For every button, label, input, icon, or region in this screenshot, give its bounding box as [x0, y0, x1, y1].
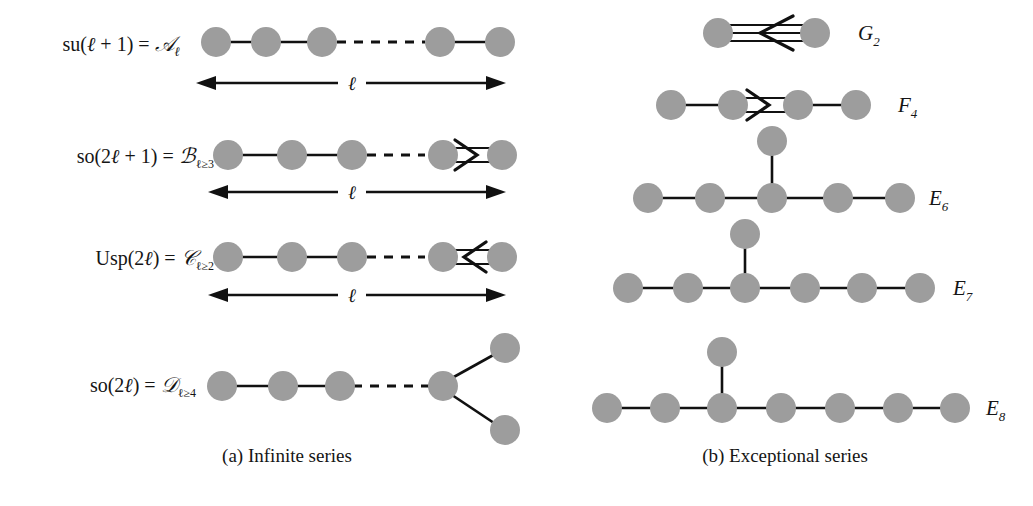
caption-exceptional-series: (b) Exceptional series — [702, 445, 868, 467]
row-G2: G2 — [703, 16, 880, 50]
node — [428, 140, 458, 170]
row-E6-label: E6 — [928, 186, 949, 214]
node — [428, 371, 458, 401]
measure-label-B: ℓ — [348, 182, 356, 203]
node — [425, 27, 455, 57]
dynkin-diagram-figure: su(ℓ + 1) = 𝒜ℓ ℓ so(2ℓ + 1) = — [0, 0, 1033, 506]
node — [490, 333, 520, 363]
node — [718, 90, 748, 120]
row-E6: E6 — [633, 126, 949, 214]
node — [783, 90, 813, 120]
node — [277, 140, 307, 170]
row-E7-label: E7 — [952, 276, 973, 304]
measure-arrowhead-right — [486, 185, 506, 199]
exc-letter: G — [858, 21, 873, 45]
node — [337, 242, 367, 272]
node — [885, 183, 915, 213]
node — [847, 273, 877, 303]
row-F4-label: F4 — [897, 93, 918, 121]
node — [485, 27, 515, 57]
row-G2-label: G2 — [858, 21, 880, 49]
measure-arrow-C: ℓ — [208, 285, 506, 306]
node — [613, 273, 643, 303]
row-B-label: so(2ℓ + 1) = ℬℓ≥3 — [77, 144, 214, 171]
measure-arrow-A: ℓ — [196, 73, 506, 94]
node — [487, 242, 517, 272]
node — [707, 393, 737, 423]
panel-infinite-series: su(ℓ + 1) = 𝒜ℓ ℓ so(2ℓ + 1) = — [63, 27, 520, 467]
exc-subscript: 7 — [966, 289, 973, 304]
row-C-label: Usp(2ℓ) = 𝒞ℓ≥2 — [95, 246, 214, 273]
row-A: su(ℓ + 1) = 𝒜ℓ ℓ — [63, 27, 515, 94]
node — [268, 371, 298, 401]
node — [650, 393, 680, 423]
node-branch — [707, 337, 737, 367]
node — [940, 393, 970, 423]
node — [307, 27, 337, 57]
node — [703, 18, 733, 48]
caption-infinite-series: (a) Infinite series — [222, 445, 352, 467]
measure-arrowhead-right — [486, 288, 506, 302]
measure-arrowhead-left — [208, 185, 228, 199]
node — [201, 27, 231, 57]
measure-label-C: ℓ — [348, 285, 356, 306]
node — [841, 90, 871, 120]
node — [213, 242, 243, 272]
exc-letter: E — [985, 396, 999, 420]
row-D: so(2ℓ) = 𝒟ℓ≥4 — [90, 333, 520, 445]
measure-arrowhead-right — [486, 76, 506, 90]
node — [656, 90, 686, 120]
node — [823, 183, 853, 213]
exc-letter: E — [952, 276, 966, 300]
node — [633, 183, 663, 213]
node — [592, 393, 622, 423]
row-C: Usp(2ℓ) = 𝒞ℓ≥2 ℓ — [95, 242, 517, 306]
row-F4: F4 — [656, 90, 918, 121]
node — [757, 183, 787, 213]
node — [905, 273, 935, 303]
row-E8: E8 — [592, 337, 1006, 424]
node — [325, 371, 355, 401]
node — [428, 242, 458, 272]
node — [251, 27, 281, 57]
node — [730, 273, 760, 303]
measure-arrowhead-left — [196, 76, 216, 90]
row-E8-label: E8 — [985, 396, 1006, 424]
node — [883, 393, 913, 423]
node — [490, 415, 520, 445]
measure-arrow-B: ℓ — [208, 182, 506, 203]
node — [277, 242, 307, 272]
node — [695, 183, 725, 213]
panel-exceptional-series: G2 F4 — [592, 16, 1006, 467]
node — [207, 371, 237, 401]
node-branch — [730, 219, 760, 249]
exc-subscript: 4 — [911, 106, 918, 121]
node — [790, 273, 820, 303]
exc-subscript: 2 — [873, 34, 880, 49]
node — [766, 393, 796, 423]
row-D-label: so(2ℓ) = 𝒟ℓ≥4 — [90, 373, 196, 400]
node — [337, 140, 367, 170]
bond-arrowhead-right-icon — [455, 140, 477, 170]
node — [825, 393, 855, 423]
node — [800, 18, 830, 48]
row-A-label: su(ℓ + 1) = 𝒜ℓ — [63, 32, 181, 59]
node-branch — [757, 126, 787, 156]
exc-subscript: 6 — [942, 199, 949, 214]
measure-arrowhead-left — [208, 288, 228, 302]
exc-letter: E — [928, 186, 942, 210]
bond-arrowhead-left-icon — [464, 242, 486, 272]
exc-letter: F — [897, 93, 911, 117]
node — [213, 140, 243, 170]
bond-arrowhead-right-icon — [747, 90, 769, 120]
row-B: so(2ℓ + 1) = ℬℓ≥3 ℓ — [77, 140, 517, 203]
node — [487, 140, 517, 170]
exc-subscript: 8 — [999, 409, 1006, 424]
row-E7: E7 — [613, 219, 973, 304]
measure-label-A: ℓ — [348, 73, 356, 94]
node — [673, 273, 703, 303]
